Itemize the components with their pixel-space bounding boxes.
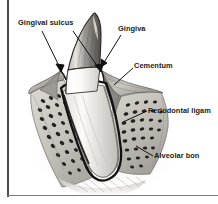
illustration-canvas <box>0 0 218 204</box>
label-gingiva: Gingiva <box>118 25 145 32</box>
label-cementum: Cementum <box>134 62 173 69</box>
label-gingival-sulcus: Gingival sulcus <box>18 19 73 26</box>
label-alveolar-bone: Alveolar bon <box>154 152 199 159</box>
leader-gingiva <box>101 35 121 67</box>
label-periodontal-ligament: Periodontal ligam <box>148 107 211 114</box>
tooth-anatomy-figure: Gingival sulcus Gingiva Cementum Periodo… <box>0 0 218 204</box>
frame-left-rule <box>7 0 9 197</box>
frame-bottom-rule <box>7 195 218 196</box>
leader-gingival-sulcus-left <box>42 31 64 72</box>
